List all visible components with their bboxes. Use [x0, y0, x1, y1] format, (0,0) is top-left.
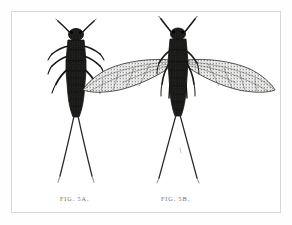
fig5b-abdomen: [168, 62, 188, 116]
figure-5a-caption: FIG. 5A.: [60, 195, 89, 202]
illustration-plate: FIG. 5A. FIG. 5B.: [0, 0, 292, 225]
fig5a-head: [69, 29, 84, 41]
fig5a-cerci: [58, 116, 94, 183]
figure-5a-nymph: [48, 19, 104, 182]
figure-5b-adult: [80, 17, 278, 184]
figure-canvas: [0, 0, 292, 225]
fig5b-head: [171, 28, 186, 40]
fig5b-cerci: [157, 115, 199, 183]
fig5b-thorax: [168, 39, 188, 62]
insect-illustration-svg: [0, 0, 292, 225]
fig5b-right-wing: [183, 55, 278, 97]
figure-5b-caption: FIG. 5B.: [161, 195, 190, 202]
